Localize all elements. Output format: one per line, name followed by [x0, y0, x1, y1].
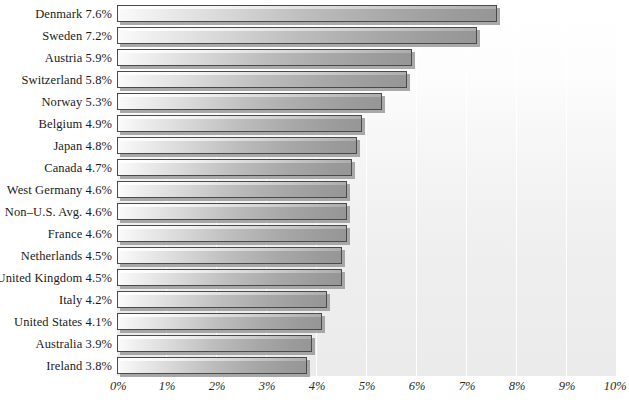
- chart-row: Non–U.S. Avg. 4.6%: [0, 202, 629, 224]
- chart-row: Netherlands 4.5%: [0, 246, 629, 268]
- bar-japan: [117, 137, 357, 156]
- bar-fill: [117, 313, 322, 330]
- bar-switzerland: [117, 71, 407, 90]
- bar-fill: [117, 335, 312, 352]
- x-tick-label: 2%: [209, 379, 226, 394]
- bar-label: Italy 4.2%: [59, 290, 117, 310]
- bar-netherlands: [117, 247, 342, 266]
- bar-label: Non–U.S. Avg. 4.6%: [5, 202, 117, 222]
- bar-label: Japan 4.8%: [53, 136, 117, 156]
- bar-belgium: [117, 115, 362, 134]
- bar-fill: [117, 71, 407, 88]
- x-axis: 0%1%2%3%4%5%6%7%8%9%10%: [117, 379, 617, 399]
- bar-label: Australia 3.9%: [36, 334, 117, 354]
- x-tick-label: 0%: [110, 379, 127, 394]
- bar-fill: [117, 27, 477, 44]
- bar-fill: [117, 5, 497, 22]
- bar-france: [117, 225, 347, 244]
- bar-denmark: [117, 5, 497, 24]
- bar-chart: Denmark 7.6%Sweden 7.2%Austria 5.9%Switz…: [0, 0, 629, 409]
- bar-west-germany: [117, 181, 347, 200]
- bar-non-u-s-avg: [117, 203, 347, 222]
- chart-row: Norway 5.3%: [0, 92, 629, 114]
- bar-sweden: [117, 27, 477, 46]
- x-tick-label: 7%: [459, 379, 476, 394]
- bar-fill: [117, 269, 342, 286]
- chart-row: United States 4.1%: [0, 312, 629, 334]
- bar-label: Canada 4.7%: [44, 158, 117, 178]
- bar-fill: [117, 49, 412, 66]
- chart-row: Italy 4.2%: [0, 290, 629, 312]
- bar-fill: [117, 225, 347, 242]
- x-tick-label: 10%: [604, 379, 627, 394]
- bar-label: West Germany 4.6%: [7, 180, 117, 200]
- bar-ireland: [117, 357, 307, 376]
- bar-austria: [117, 49, 412, 68]
- x-tick-label: 9%: [559, 379, 576, 394]
- bar-label: Switzerland 5.8%: [22, 70, 117, 90]
- bar-label: Norway 5.3%: [41, 92, 117, 112]
- bar-australia: [117, 335, 312, 354]
- x-tick-label: 1%: [159, 379, 176, 394]
- chart-row: Australia 3.9%: [0, 334, 629, 356]
- bar-label: Ireland 3.8%: [46, 356, 117, 376]
- bar-fill: [117, 291, 327, 308]
- bar-label: Belgium 4.9%: [39, 114, 117, 134]
- x-tick-label: 8%: [509, 379, 526, 394]
- chart-row: West Germany 4.6%: [0, 180, 629, 202]
- bar-norway: [117, 93, 382, 112]
- chart-row: Denmark 7.6%: [0, 4, 629, 26]
- bar-rows: Denmark 7.6%Sweden 7.2%Austria 5.9%Switz…: [0, 4, 629, 378]
- bar-canada: [117, 159, 352, 178]
- bar-united-kingdom: [117, 269, 342, 288]
- bar-fill: [117, 203, 347, 220]
- bar-fill: [117, 137, 357, 154]
- chart-row: Switzerland 5.8%: [0, 70, 629, 92]
- bar-united-states: [117, 313, 322, 332]
- x-tick-label: 5%: [359, 379, 376, 394]
- chart-row: United Kingdom 4.5%: [0, 268, 629, 290]
- bar-fill: [117, 159, 352, 176]
- chart-row: Ireland 3.8%: [0, 356, 629, 378]
- chart-row: Austria 5.9%: [0, 48, 629, 70]
- bar-label: United States 4.1%: [14, 312, 117, 332]
- chart-row: Canada 4.7%: [0, 158, 629, 180]
- chart-row: Sweden 7.2%: [0, 26, 629, 48]
- chart-row: Belgium 4.9%: [0, 114, 629, 136]
- bar-label: Austria 5.9%: [45, 48, 117, 68]
- bar-label: Sweden 7.2%: [42, 26, 117, 46]
- bar-fill: [117, 357, 307, 374]
- bar-label: France 4.6%: [48, 224, 117, 244]
- bar-label: Denmark 7.6%: [35, 4, 117, 24]
- bar-fill: [117, 247, 342, 264]
- bar-label: Netherlands 4.5%: [21, 246, 117, 266]
- bar-fill: [117, 115, 362, 132]
- x-tick-label: 3%: [259, 379, 276, 394]
- chart-row: France 4.6%: [0, 224, 629, 246]
- bar-fill: [117, 181, 347, 198]
- bar-italy: [117, 291, 327, 310]
- chart-row: Japan 4.8%: [0, 136, 629, 158]
- bar-fill: [117, 93, 382, 110]
- x-tick-label: 6%: [409, 379, 426, 394]
- bar-label: United Kingdom 4.5%: [0, 268, 117, 288]
- x-tick-label: 4%: [309, 379, 326, 394]
